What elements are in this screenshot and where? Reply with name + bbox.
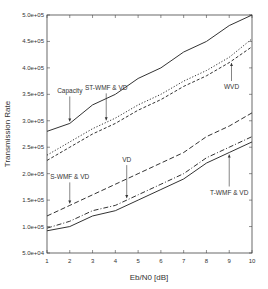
y-tick-label: 5.0e+05: [22, 12, 45, 18]
x-tick-label: 7: [182, 258, 186, 264]
x-axis-label: Eb/N0 [dB]: [130, 273, 169, 282]
annotation-t-wmf-vd: T-WMF & VD: [210, 189, 249, 196]
y-tick-label: 4.0e+05: [22, 65, 45, 71]
x-tick-label: 10: [249, 258, 256, 264]
arrow-head-icon: [68, 118, 71, 121]
annotation-wvd: WVD: [224, 83, 239, 90]
x-tick-label: 2: [68, 258, 72, 264]
arrow-head-icon: [105, 117, 108, 120]
y-tick-label: 1.5e+05: [22, 197, 45, 203]
y-tick-label: 5.0e+04: [22, 250, 45, 256]
x-tick-label: 9: [228, 258, 232, 264]
annotation-vd: VD: [122, 156, 131, 163]
y-tick-label: 3.0e+05: [22, 118, 45, 124]
annotation-s-wmf-vd: S-WMF & VD: [50, 173, 89, 180]
arrow-head-icon: [228, 155, 231, 158]
arrow-head-icon: [125, 195, 128, 198]
x-tick-label: 1: [45, 258, 49, 264]
annotation-capacity: Capacity: [57, 87, 83, 95]
x-tick-label: 4: [114, 258, 118, 264]
arrow-head-icon: [68, 200, 71, 203]
transmission-rate-chart: 5.0e+041.0e+051.5e+052.0e+052.5e+053.0e+…: [0, 0, 268, 289]
x-tick-label: 5: [136, 258, 140, 264]
series-line-s-wmf-vd: [47, 113, 252, 216]
x-tick-label: 3: [91, 258, 95, 264]
series-line-st-wmf-vd: [47, 39, 252, 155]
y-tick-label: 2.0e+05: [22, 171, 45, 177]
series-line-capacity: [47, 15, 252, 131]
arrow-head-icon: [230, 63, 233, 66]
y-tick-label: 4.5e+05: [22, 38, 45, 44]
series-line-wvd: [47, 47, 252, 161]
y-tick-label: 1.0e+05: [22, 224, 45, 230]
x-tick-label: 8: [205, 258, 209, 264]
y-tick-label: 2.5e+05: [22, 144, 45, 150]
y-tick-label: 3.5e+05: [22, 91, 45, 97]
series-line-vd: [47, 137, 252, 228]
y-axis-label: Transmission Rate: [3, 100, 12, 167]
x-tick-label: 6: [159, 258, 163, 264]
annotation-st-wmf-vd: ST-WMF & VD: [85, 84, 128, 91]
